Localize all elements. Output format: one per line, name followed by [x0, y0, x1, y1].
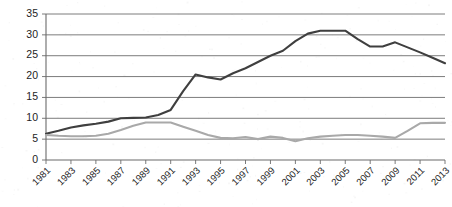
noise-speck [13, 194, 14, 195]
noise-speck [57, 117, 59, 118]
noise-speck [31, 5, 32, 6]
noise-speck [208, 112, 209, 114]
noise-speck [445, 63, 446, 64]
noise-speck [48, 62, 49, 63]
noise-speck [158, 147, 159, 148]
noise-speck [437, 24, 438, 25]
noise-speck [22, 168, 23, 169]
noise-speck [404, 88, 405, 90]
noise-speck [117, 96, 118, 97]
noise-speck [199, 186, 200, 187]
noise-speck [247, 180, 249, 181]
noise-speck [196, 26, 197, 27]
noise-speck [147, 31, 149, 32]
noise-speck [410, 165, 411, 166]
noise-speck [65, 33, 66, 34]
noise-speck [281, 67, 282, 68]
noise-speck [267, 129, 269, 130]
noise-speck [161, 163, 162, 164]
noise-speck [360, 89, 362, 90]
noise-speck [31, 179, 32, 180]
noise-speck [1, 147, 3, 148]
noise-speck [300, 61, 301, 63]
noise-speck [177, 192, 178, 193]
noise-speck [241, 43, 242, 44]
noise-speck [351, 202, 353, 203]
noise-speck [12, 58, 14, 60]
noise-speck [213, 57, 215, 59]
noise-speck [358, 7, 360, 8]
noise-speck [5, 86, 7, 87]
noise-speck [14, 189, 15, 190]
noise-speck [98, 87, 99, 88]
noise-speck [442, 138, 443, 139]
noise-speck [153, 72, 154, 73]
noise-speck [199, 191, 201, 192]
noise-speck [380, 173, 381, 174]
noise-speck [209, 49, 211, 50]
noise-speck [43, 26, 44, 27]
noise-speck [155, 152, 156, 153]
noise-speck [38, 79, 39, 80]
noise-speck [128, 98, 129, 99]
y-tick-label: 10 [26, 111, 38, 123]
noise-speck [5, 119, 7, 120]
noise-speck [319, 56, 320, 58]
noise-speck [4, 180, 6, 181]
noise-speck [209, 98, 210, 99]
noise-speck [262, 23, 263, 25]
noise-speck [208, 143, 210, 144]
noise-speck [215, 130, 216, 132]
noise-speck [397, 146, 399, 148]
noise-speck [255, 175, 256, 177]
noise-speck [350, 28, 351, 29]
noise-speck [322, 143, 324, 145]
noise-speck [358, 141, 360, 142]
noise-speck [343, 186, 344, 187]
noise-speck [132, 63, 134, 64]
noise-speck [350, 96, 351, 97]
noise-speck [329, 161, 330, 162]
y-tick-label: 20 [26, 69, 38, 81]
noise-speck [145, 147, 146, 148]
noise-speck [41, 22, 43, 23]
noise-speck [71, 71, 72, 72]
noise-speck [300, 121, 301, 122]
noise-speck [34, 151, 35, 153]
noise-speck [104, 6, 105, 7]
noise-speck [153, 97, 154, 98]
noise-speck [371, 169, 373, 170]
noise-speck [83, 135, 85, 137]
noise-speck [32, 181, 34, 183]
noise-speck [415, 73, 416, 74]
noise-speck [187, 2, 189, 4]
noise-speck [382, 166, 384, 167]
noise-speck [289, 142, 291, 143]
y-tick-label: 15 [26, 90, 38, 102]
noise-speck [86, 112, 87, 113]
noise-speck [413, 88, 414, 89]
noise-speck [241, 19, 243, 20]
noise-speck [389, 194, 390, 195]
noise-speck [229, 144, 230, 146]
noise-speck [450, 163, 451, 165]
y-tick-label: 5 [32, 132, 38, 144]
noise-speck [77, 2, 78, 3]
noise-speck [450, 125, 451, 126]
y-tick-label: 30 [26, 28, 38, 40]
noise-speck [250, 176, 251, 177]
noise-speck [241, 2, 242, 3]
noise-speck [316, 36, 318, 37]
noise-speck [304, 172, 306, 173]
noise-speck [423, 55, 425, 57]
noise-speck [59, 34, 60, 35]
noise-speck [228, 183, 230, 185]
noise-speck [211, 49, 213, 51]
noise-speck [307, 65, 308, 67]
noise-speck [332, 35, 333, 36]
noise-speck [412, 124, 413, 126]
noise-speck [2, 191, 4, 192]
noise-speck [428, 4, 430, 6]
noise-speck [79, 62, 80, 63]
noise-speck [252, 203, 253, 204]
